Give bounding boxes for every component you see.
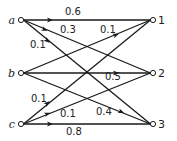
edge-weight-a-2: 0.3	[60, 24, 76, 35]
edge-weight-c-3: 0.8	[66, 126, 82, 137]
edge-weight-a-1: 0.6	[65, 6, 81, 17]
edge-weight-b-1: 0.1	[100, 24, 116, 35]
target-node-2	[150, 70, 155, 75]
source-node-b	[18, 70, 23, 75]
source-label-a: a	[8, 14, 15, 27]
edge-weight-c-2: 0.1	[60, 108, 76, 119]
edge-weight-b-3: 0.4	[96, 106, 112, 117]
target-node-1	[150, 17, 155, 22]
source-node-c	[18, 121, 23, 126]
edge-weight-a-3: 0.1	[30, 39, 46, 50]
edges-group	[24, 20, 151, 124]
edge-labels-group: 0.60.30.10.10.50.40.10.10.8	[30, 6, 121, 137]
transition-diagram: 0.60.30.10.10.50.40.10.10.8 abc123	[0, 0, 177, 141]
target-node-3	[150, 121, 155, 126]
edge-weight-b-2: 0.5	[105, 71, 121, 82]
target-label-3: 3	[158, 118, 165, 131]
source-label-c: c	[9, 118, 15, 131]
source-label-b: b	[8, 67, 15, 80]
target-label-2: 2	[158, 67, 165, 80]
edge-weight-c-1: 0.1	[31, 93, 47, 104]
target-label-1: 1	[158, 14, 165, 27]
source-node-a	[18, 17, 23, 22]
